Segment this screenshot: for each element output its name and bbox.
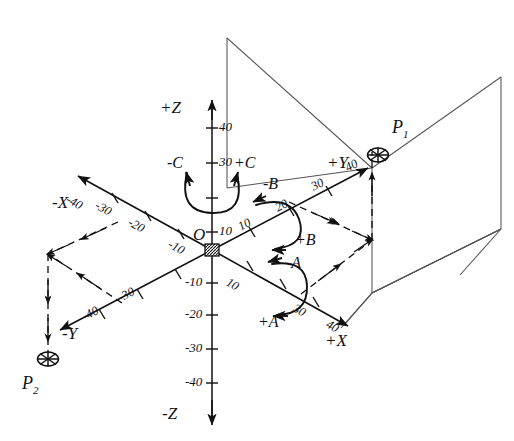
axis-label-z-negative: -Z [162, 405, 177, 422]
tick-label-z-neg40: -40 [185, 375, 202, 388]
axis-label-y-negative: -Y [62, 325, 77, 342]
point-label-p1-index: 1 [403, 128, 409, 140]
tick-label-z-40: 40 [219, 120, 232, 133]
origin-marker [205, 244, 219, 256]
rotary-label-c-positive: +C [234, 155, 255, 171]
tick-label-z-10: 10 [219, 224, 232, 237]
tick-label-z-neg10: -10 [185, 275, 202, 288]
origin-label: O [193, 226, 205, 243]
rotary-label-c-negative: -C [167, 155, 183, 171]
rotary-label-a-positive: +A [258, 314, 279, 330]
rotary-label-a-negative: -A [286, 255, 301, 271]
rotary-label-b-negative: -B [263, 176, 278, 192]
rotary-label-b-positive: +B [295, 232, 316, 248]
tick-label-z-neg30: -30 [185, 341, 202, 354]
projection-lines-p2 [48, 222, 122, 352]
diagram-canvas: +Z -Z +Y -Y +X -X O -C +C -B +B -A +A P1… [0, 0, 514, 441]
axis-label-z-positive: +Z [160, 99, 181, 116]
point-label-p1: P1 [392, 118, 409, 140]
axis-z [206, 100, 218, 425]
coordinate-system-drawing [0, 0, 514, 441]
tick-label-z-30: 30 [219, 155, 232, 168]
point-label-p2-index: 2 [33, 384, 39, 396]
point-label-p2: P2 [22, 374, 39, 396]
axis-label-x-positive: +X [325, 332, 347, 349]
point-symbol-p2 [38, 352, 59, 367]
point-label-p1-name: P [392, 117, 403, 137]
tick-label-z-neg20: -20 [185, 307, 202, 320]
point-symbol-p1 [368, 148, 389, 163]
point-label-p2-name: P [22, 373, 33, 393]
